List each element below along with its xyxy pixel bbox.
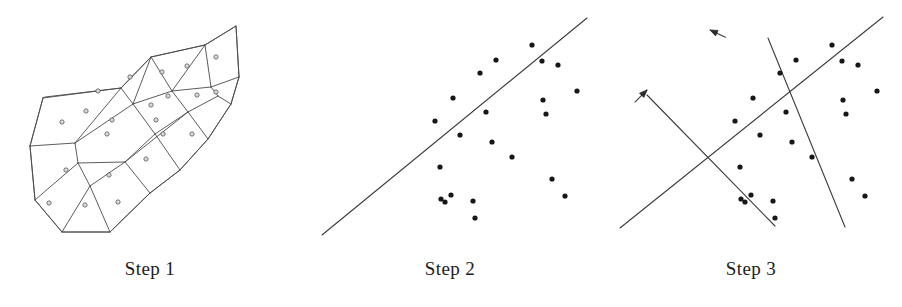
scatter-dot xyxy=(470,198,475,203)
mesh-cell-marker-center xyxy=(215,56,216,57)
scatter-dot xyxy=(829,42,834,47)
scatter-dot xyxy=(783,109,788,114)
caption-step-1: Step 1 xyxy=(0,258,300,280)
mesh-edge xyxy=(205,45,211,87)
principal-axis-minor-secondary xyxy=(647,95,775,226)
mesh-edge xyxy=(231,77,239,104)
mesh-edge xyxy=(208,104,231,139)
scatter-dot xyxy=(732,118,737,123)
mesh-edge xyxy=(236,26,239,77)
scatter-dot xyxy=(472,215,477,220)
scatter-dot xyxy=(748,192,753,197)
scatter-plot-with-fit-line xyxy=(300,0,600,250)
mesh-cell-marker-center xyxy=(84,204,85,205)
scatter-dot xyxy=(437,164,442,169)
mesh-cell-marker-center xyxy=(167,95,168,96)
mesh-edge xyxy=(90,186,110,232)
mesh-diagram xyxy=(0,0,300,250)
mesh-cell-marker-center xyxy=(65,169,66,170)
mesh-edge xyxy=(155,112,188,134)
scatter-dot xyxy=(574,88,579,93)
mesh-edge xyxy=(75,143,78,163)
fit-line xyxy=(322,18,587,235)
scatter-dot xyxy=(809,154,814,159)
mesh-edge xyxy=(121,57,151,88)
mesh-edge xyxy=(30,98,43,146)
scatter-dot xyxy=(562,193,567,198)
mesh-cell-marker-center xyxy=(186,65,187,66)
mesh-edge xyxy=(125,134,155,162)
scatter-dot xyxy=(555,62,560,67)
mesh-edge xyxy=(188,96,218,112)
scatter-dot xyxy=(757,132,762,137)
scatter-dot xyxy=(789,139,794,144)
scatter-dot xyxy=(737,164,742,169)
mesh-edge xyxy=(110,193,150,232)
scatter-dot xyxy=(793,57,798,62)
mesh-edge xyxy=(78,163,90,186)
scatter-dot xyxy=(483,109,488,114)
scatter-dot xyxy=(448,192,453,197)
mesh-cell-marker-center xyxy=(108,174,109,175)
scatter-dot xyxy=(874,88,879,93)
mesh-cell-marker-center xyxy=(191,133,192,134)
caption-step-3: Step 3 xyxy=(600,258,902,280)
scatter-dot xyxy=(549,176,554,181)
mesh-cell-marker-center xyxy=(145,158,146,159)
mesh-edge xyxy=(155,134,180,170)
mesh-edge xyxy=(62,186,90,232)
mesh-edge xyxy=(35,163,78,200)
mesh-cell-marker-center xyxy=(155,119,156,120)
mesh-edge xyxy=(172,87,211,91)
mesh-cell-marker-center xyxy=(97,90,98,91)
three-step-figure: Step 1 Step 2 Step 3 xyxy=(0,0,902,307)
scatter-plot-with-principal-axes xyxy=(600,0,902,250)
upper-left-arrow-head xyxy=(710,30,718,36)
mesh-edge xyxy=(43,88,121,98)
scatter-dot xyxy=(750,95,755,100)
scatter-dot xyxy=(777,70,782,75)
mesh-edge xyxy=(30,146,35,200)
mesh-cell-marker-center xyxy=(111,119,112,120)
scatter-dot xyxy=(862,193,867,198)
scatter-dot xyxy=(772,215,777,220)
mesh-cell-marker-center xyxy=(48,202,49,203)
mesh-edge xyxy=(75,88,121,143)
scatter-dot xyxy=(540,97,545,102)
scatter-dot xyxy=(839,58,844,63)
mesh-cell-marker-center xyxy=(117,201,118,202)
scatter-dot xyxy=(438,196,443,201)
mesh-cell-marker-center xyxy=(162,133,163,134)
mesh-edge xyxy=(78,162,125,163)
scatter-dot xyxy=(432,118,437,123)
scatter-dot xyxy=(450,95,455,100)
mesh-cell-marker-center xyxy=(129,76,130,77)
mesh-edge xyxy=(180,139,208,170)
mesh-edge xyxy=(218,96,231,104)
scatter-dot xyxy=(477,70,482,75)
mesh-edge xyxy=(121,88,133,104)
mesh-cell-marker-center xyxy=(150,104,151,105)
scatter-dot xyxy=(738,196,743,201)
mesh-cell-marker-center xyxy=(106,133,107,134)
scatter-dot xyxy=(543,111,548,116)
caption-step-2: Step 2 xyxy=(300,258,600,280)
scatter-dot xyxy=(489,139,494,144)
panel-step-1: Step 1 xyxy=(0,0,300,307)
principal-axis-minor xyxy=(768,38,845,227)
mesh-edge xyxy=(125,162,150,193)
mesh-edge xyxy=(133,57,151,104)
mesh-cell-marker-center xyxy=(161,71,162,72)
mesh-edge xyxy=(30,143,75,146)
mesh-edge xyxy=(151,45,205,57)
scatter-dot xyxy=(539,58,544,63)
mesh-edge xyxy=(205,26,236,45)
scatter-dot xyxy=(840,97,845,102)
mesh-edge xyxy=(75,104,133,143)
mesh-outline xyxy=(30,26,239,232)
mesh-cell-marker-center xyxy=(215,91,216,92)
panel-step-3: Step 3 xyxy=(600,0,902,307)
panel-step-2: Step 2 xyxy=(300,0,600,307)
mesh-edge xyxy=(150,170,180,193)
scatter-dot xyxy=(493,57,498,62)
